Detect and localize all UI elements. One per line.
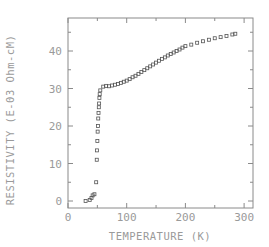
y-tick-label: 10: [49, 158, 62, 171]
data-point: [196, 41, 199, 44]
x-tick-label: 0: [65, 211, 72, 224]
data-point: [98, 96, 101, 99]
data-point: [213, 37, 216, 40]
resistivity-chart: 0100200300 010203040 TEMPERATURE (K) RES…: [0, 0, 269, 247]
data-point: [98, 93, 101, 96]
plot-frame: [68, 18, 253, 208]
data-point: [84, 200, 87, 203]
data-point: [95, 181, 98, 184]
data-point: [97, 111, 100, 114]
data-point: [95, 158, 98, 161]
data-point: [98, 102, 101, 105]
y-tick-label: 30: [49, 83, 62, 96]
data-point: [96, 125, 99, 128]
x-axis-title: TEMPERATURE (K): [109, 230, 211, 242]
y-tick-label: 0: [55, 195, 62, 208]
data-point: [97, 117, 100, 120]
data-point: [219, 36, 222, 39]
y-tick-label: 20: [49, 120, 62, 133]
plot-border: [68, 18, 253, 208]
x-tick-label: 200: [175, 211, 195, 224]
y-tick-label: 40: [49, 45, 62, 58]
data-point: [225, 35, 228, 38]
data-point: [202, 40, 205, 43]
y-axis-ticks: 010203040: [49, 32, 253, 208]
data-point: [96, 130, 99, 133]
data-point: [190, 43, 193, 46]
y-axis-title: RESISTIVITY (E-03 Ohm-cM): [4, 35, 16, 206]
data-points: [84, 32, 237, 202]
data-point: [96, 140, 99, 143]
data-point: [97, 106, 100, 109]
data-point: [99, 89, 102, 92]
data-point: [207, 38, 210, 41]
data-point: [96, 149, 99, 152]
x-tick-label: 100: [117, 211, 137, 224]
x-tick-label: 300: [234, 211, 254, 224]
